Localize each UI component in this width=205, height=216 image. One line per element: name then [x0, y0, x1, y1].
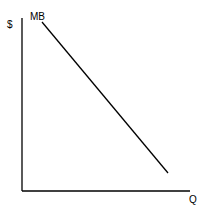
y-axis-label: $: [7, 20, 13, 30]
mb-curve: [42, 22, 168, 173]
x-axis-label: Q: [189, 195, 197, 205]
mb-label: MB: [30, 12, 45, 22]
chart-canvas: [0, 0, 205, 216]
